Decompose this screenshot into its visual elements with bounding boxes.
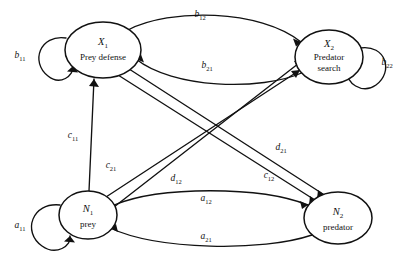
edge-label-a12: a12: [200, 193, 211, 205]
node-n2-name: predator: [323, 222, 353, 232]
edge-c12: [118, 75, 318, 205]
node-n2[interactable]: N2 predator: [304, 192, 372, 244]
edge-d21: [126, 67, 326, 199]
node-x1[interactable]: X1 Prey defense: [65, 22, 141, 78]
node-x2-name-line1: Predator: [314, 52, 345, 62]
node-x2[interactable]: X2 Predator search: [295, 30, 363, 84]
edge-label-c21: c21: [106, 160, 117, 172]
edge-b12: [128, 15, 301, 46]
edge-label-d21: d21: [275, 142, 286, 154]
edge-label-b22: b22: [381, 57, 392, 69]
graph-canvas: X1 Prey defense X2 Predator search N1 pr…: [0, 0, 407, 260]
edge-c11: [89, 79, 99, 191]
node-n1-name: prey: [80, 219, 96, 229]
edge-b21: [136, 55, 304, 85]
edge-label-c11: c11: [68, 130, 78, 142]
edge-label-b21: b21: [201, 60, 212, 72]
node-x2-name-line2: search: [318, 63, 341, 73]
node-n1[interactable]: N1 prey: [59, 191, 117, 239]
signal-flow-diagram: X1 Prey defense X2 Predator search N1 pr…: [0, 0, 407, 260]
edge-label-d12: d12: [170, 173, 181, 185]
edge-label-c12: c12: [264, 170, 275, 182]
edge-label-b11: b11: [14, 50, 25, 62]
edge-label-a21: a21: [200, 231, 211, 243]
edge-label-b12: b12: [194, 9, 205, 21]
node-x1-name: Prey defense: [80, 52, 126, 62]
edge-label-a11: a11: [14, 220, 25, 232]
edge-d12: [114, 60, 303, 207]
